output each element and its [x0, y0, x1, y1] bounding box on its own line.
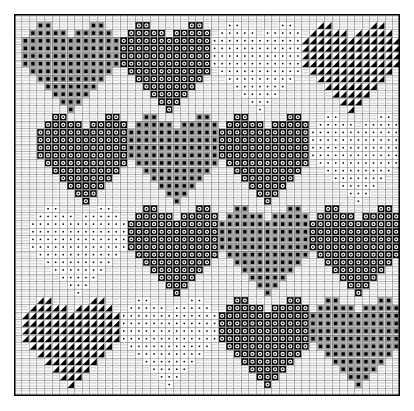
cross-stitch-grid-frame — [14, 14, 400, 396]
cross-stitch-grid-canvas — [14, 14, 400, 396]
pattern-chart-page — [0, 0, 414, 411]
